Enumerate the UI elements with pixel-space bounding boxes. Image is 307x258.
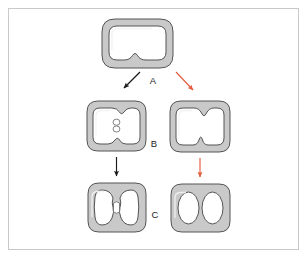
stage-a-cell: [102, 19, 173, 68]
stage-label-c: C: [152, 209, 159, 220]
figure-eight-upper-lobe: [113, 119, 120, 125]
stage-c-right-cavity-right: [202, 192, 223, 224]
stage-c-left-cavity-right: [119, 190, 138, 225]
stage-b-right-cell: [170, 101, 230, 152]
stage-label-b: B: [151, 138, 157, 149]
stage-label-a: A: [150, 75, 157, 86]
stage-c-right-cavity-left: [178, 192, 199, 224]
stage-c-left-cell: [88, 183, 146, 232]
cell-division-diagram: A B: [0, 0, 307, 258]
stage-c-right-cell: [171, 184, 230, 232]
figure-root: A B: [0, 0, 307, 258]
figure-eight-lower-lobe: [113, 126, 120, 132]
stage-b-left-cell: [87, 101, 146, 151]
stage-a-cavity: [109, 26, 166, 60]
stage-c-left-bridge: [114, 202, 120, 214]
arrow-a-to-left-b: [124, 72, 140, 88]
stage-c-left-cavity-left: [94, 190, 113, 225]
arrow-a-to-right-b: [176, 72, 193, 90]
